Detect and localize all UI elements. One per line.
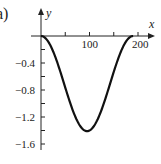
y-axis-arrow-icon xyxy=(38,8,44,15)
y-tick-label: −1.2 xyxy=(15,111,35,123)
y-tick-label: −1.6 xyxy=(15,138,35,150)
y-tick-label: −0.8 xyxy=(15,84,35,96)
x-axis-label: x xyxy=(148,17,155,31)
y-axis-label: y xyxy=(45,6,52,20)
y-tick-label: −0.4 xyxy=(15,57,35,69)
x-tick-label: 200 xyxy=(132,38,149,50)
data-curve xyxy=(41,36,133,131)
x-tick-label: 100 xyxy=(82,38,99,50)
x-axis-arrow-icon xyxy=(148,33,155,39)
axes: xy100200−0.4−0.8−1.2−1.6 xyxy=(15,6,155,150)
line-chart: xy100200−0.4−0.8−1.2−1.6 xyxy=(0,0,161,164)
